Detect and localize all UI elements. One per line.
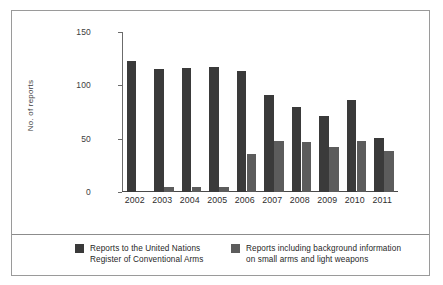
x-tick-label-2010: 2010: [341, 195, 369, 205]
bar-group: [264, 32, 292, 192]
bar-2008-series-2: [302, 142, 312, 192]
bar-2006-series-2: [247, 154, 257, 192]
bar-2004-series-1: [182, 68, 192, 192]
bar-2011-series-1: [374, 138, 384, 192]
y-tick-label: 50: [81, 134, 91, 144]
bar-2010-series-1: [347, 100, 357, 192]
legend-label-series-1-line-2: Register of Conventional Arms: [90, 255, 203, 264]
bar-2009-series-1: [319, 116, 329, 192]
x-tick-label-2005: 2005: [204, 195, 232, 205]
legend-label-series-2-line-2: on small arms and light weapons: [246, 255, 368, 264]
bar-2003-series-2: [164, 187, 174, 192]
y-tick-mark: [118, 139, 122, 140]
bar-group: [182, 32, 210, 192]
bar-group: [319, 32, 347, 192]
legend-label-series-1: Reports to the United Nations Register o…: [90, 243, 203, 265]
legend-swatch-icon-series-2: [231, 244, 240, 253]
bar-2011-series-2: [384, 151, 394, 192]
y-tick-mark: [118, 32, 122, 33]
x-tick-label-2007: 2007: [259, 195, 287, 205]
x-tick-label-2009: 2009: [314, 195, 342, 205]
legend-item-reports-un-register: Reports to the United Nations Register o…: [75, 243, 203, 265]
y-tick-label: 0: [86, 187, 91, 197]
bar-2007-series-1: [264, 95, 274, 192]
bar-2008-series-1: [292, 107, 302, 192]
y-axis-title: No. of reports: [26, 66, 35, 146]
y-tick-mark: [118, 85, 122, 86]
x-tick-label-2006: 2006: [231, 195, 259, 205]
bar-group: [127, 32, 155, 192]
bar-group: [209, 32, 237, 192]
bar-group: [154, 32, 182, 192]
bar-2007-series-2: [274, 141, 284, 192]
bar-group: [347, 32, 375, 192]
legend-swatch-icon-series-1: [75, 244, 84, 253]
bar-2010-series-2: [357, 141, 367, 192]
bar-group: [292, 32, 320, 192]
x-tick-label-2003: 2003: [149, 195, 177, 205]
bar-group: [374, 32, 402, 192]
bar-2003-series-1: [154, 69, 164, 192]
legend-label-series-2: Reports including background information…: [246, 243, 401, 265]
bar-2004-series-2: [192, 187, 202, 192]
legend-item-reports-background-info: Reports including background information…: [231, 243, 401, 265]
x-tick-label-2011: 2011: [369, 195, 397, 205]
bar-2005-series-2: [219, 187, 229, 192]
bar-2002-series-1: [127, 61, 137, 192]
chart-figure: 050100150 No. of reports 200220032004200…: [11, 10, 430, 276]
legend-divider: [12, 234, 429, 235]
plot-area: 050100150 No. of reports 200220032004200…: [12, 11, 431, 233]
x-tick-label-2008: 2008: [286, 195, 314, 205]
bar-2005-series-1: [209, 67, 219, 192]
x-tick-label-2002: 2002: [121, 195, 149, 205]
x-tick-label-2004: 2004: [176, 195, 204, 205]
y-tick-label: 100: [76, 80, 91, 90]
y-tick-label: 150: [76, 27, 91, 37]
bar-group: [237, 32, 265, 192]
y-tick-mark: [118, 192, 122, 193]
bar-2009-series-2: [329, 147, 339, 192]
bars-layer: [123, 32, 398, 192]
chart-legend: Reports to the United Nations Register o…: [12, 243, 429, 275]
legend-label-series-2-line-1: Reports including background information: [246, 244, 401, 253]
legend-label-series-1-line-1: Reports to the United Nations: [90, 244, 200, 253]
bar-2006-series-1: [237, 71, 247, 192]
